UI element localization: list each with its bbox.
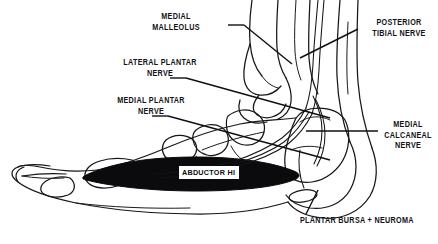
medial-malleolus-talus-group — [239, 44, 291, 123]
label-medial-malleolus: MEDIAL MALLEOLUS — [134, 12, 218, 33]
label-lateral-plantar-nerve: LATERAL PLANTAR NERVE — [104, 58, 217, 79]
abductor-hallucis-caption-box: ABDUCTOR HI — [178, 165, 240, 180]
leader-plantar-bursa — [306, 190, 318, 214]
abductor-hallucis-caption-text: ABDUCTOR HI — [182, 168, 235, 177]
tibia-fibula-group — [250, 0, 318, 94]
label-posterior-tibial-nerve: POSTERIOR TIBIAL NERVE — [366, 18, 431, 39]
label-plantar-bursa-neuroma: PLANTAR BURSA + NEUROMA — [300, 216, 420, 227]
label-medial-calcaneal-nerve: MEDIAL CALCANEAL NERVE — [383, 120, 432, 152]
anatomy-diagram: MEDIAL MALLEOLUS LATERAL PLANTAR NERVE M… — [0, 0, 438, 244]
plantar-bursa-group — [288, 188, 317, 204]
label-medial-plantar-nerve: MEDIAL PLANTAR NERVE — [87, 96, 215, 117]
